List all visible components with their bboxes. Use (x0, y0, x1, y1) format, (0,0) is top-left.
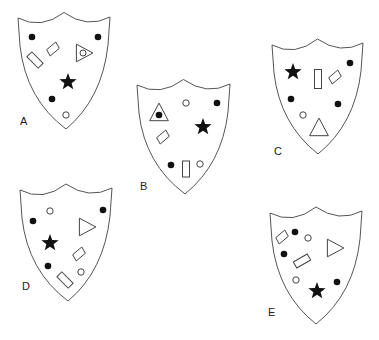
filled-dot-icon (292, 229, 299, 236)
shield-outline (272, 39, 363, 154)
filled-dot-icon (29, 34, 36, 41)
shield-diagram: ABCDE (0, 0, 379, 340)
shield-label: D (22, 280, 30, 292)
filled-dot-icon (49, 96, 56, 103)
shield-outline (18, 13, 110, 130)
shield-label: B (140, 180, 147, 192)
shield-label: E (268, 306, 275, 318)
filled-dot-icon (45, 263, 52, 270)
filled-dot-icon (334, 279, 341, 286)
shield-a: A (18, 13, 110, 130)
filled-dot-icon (156, 112, 163, 119)
shield-e: E (268, 207, 362, 324)
shield-d: D (20, 184, 112, 301)
shield-label: C (274, 145, 282, 157)
filled-dot-icon (347, 60, 354, 67)
filled-dot-icon (281, 251, 288, 258)
shield-b: B (137, 80, 230, 195)
shield-c: C (272, 39, 363, 157)
filled-dot-icon (288, 96, 295, 103)
shield-outline (270, 207, 362, 324)
filled-dot-icon (95, 34, 102, 41)
shield-label: A (20, 115, 28, 127)
filled-dot-icon (335, 101, 342, 108)
filled-dot-icon (168, 162, 175, 169)
filled-dot-icon (30, 218, 37, 225)
shield-outline (20, 184, 112, 301)
filled-dot-icon (100, 207, 107, 214)
filled-dot-icon (214, 100, 221, 107)
